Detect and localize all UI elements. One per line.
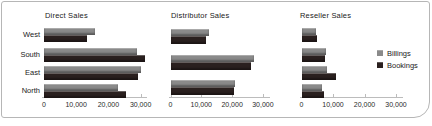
bar-bookings [302, 55, 326, 62]
bar-bookings [171, 87, 234, 95]
bar-billings [171, 80, 236, 88]
bar-bookings [302, 91, 324, 98]
bar-bookings [44, 55, 145, 62]
bar-billings [302, 28, 317, 35]
category-label-west: West [2, 30, 40, 39]
bar-billings [44, 84, 118, 91]
x-axis-tick-label: 10,000 [184, 101, 218, 109]
x-axis-line [169, 97, 270, 98]
bar-billings [171, 55, 254, 63]
panel-title-direct-sales: Direct Sales [45, 11, 88, 20]
bar-bookings [302, 73, 336, 80]
bar-billings [302, 48, 327, 55]
bar-billings [44, 28, 95, 35]
panel-title-distributor-sales: Distributor Sales [171, 11, 229, 20]
x-axis-tick-label: 10,000 [59, 101, 93, 109]
x-axis-tick-label: 30,000 [124, 101, 158, 109]
panel-title-reseller-sales: Reseller Sales [300, 11, 351, 20]
bar-bookings [302, 35, 318, 42]
x-axis-tick [263, 94, 264, 97]
legend-label-billings: Billings [387, 49, 411, 58]
x-axis-tick-label: 0 [154, 101, 188, 109]
bar-bookings [44, 73, 138, 80]
x-axis-tick-label: 10,000 [316, 101, 350, 109]
legend-label-bookings: Bookings [387, 61, 418, 70]
x-axis-tick [141, 94, 142, 97]
x-axis-tick [396, 94, 397, 97]
x-axis-tick-label: 20,000 [348, 101, 382, 109]
bar-billings [171, 29, 210, 37]
legend-entry-bookings: Bookings [377, 59, 418, 71]
x-axis-tick-label: 0 [27, 101, 61, 109]
billings-swatch-icon [377, 50, 383, 56]
legend-entry-billings: Billings [377, 47, 418, 59]
bar-billings [44, 66, 141, 73]
trellis-bar-chart: Direct Sales Distributor Sales Reseller … [0, 0, 432, 126]
x-axis-tick-label: 0 [285, 101, 319, 109]
bar-billings [302, 84, 323, 91]
category-label-north: North [2, 86, 40, 95]
x-axis-tick-label: 30,000 [246, 101, 280, 109]
x-axis-tick-label: 30,000 [379, 101, 413, 109]
bar-bookings [44, 35, 87, 42]
category-label-south: South [2, 50, 40, 59]
bar-bookings [171, 36, 206, 44]
x-axis-tick-label: 20,000 [91, 101, 125, 109]
legend: Billings Bookings [377, 47, 418, 71]
bar-bookings [44, 91, 126, 98]
x-axis-tick-label: 20,000 [215, 101, 249, 109]
bar-bookings [171, 62, 251, 70]
bookings-swatch-icon [377, 62, 383, 68]
bar-billings [302, 66, 328, 73]
category-label-east: East [2, 68, 40, 77]
x-axis-tick [365, 94, 366, 97]
bar-billings [44, 48, 137, 55]
x-axis-tick [333, 94, 334, 97]
